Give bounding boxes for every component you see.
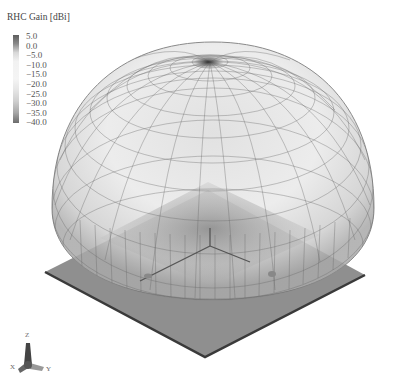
axis-triad: Z X Y bbox=[8, 325, 52, 375]
tick-label: −35.0 bbox=[26, 108, 47, 118]
tick-label: −10.0 bbox=[26, 60, 47, 70]
colorbar bbox=[13, 35, 19, 123]
tick-label: −25.0 bbox=[26, 89, 47, 99]
tick-label: −40.0 bbox=[26, 117, 47, 127]
tick-label: −30.0 bbox=[26, 98, 47, 108]
tick-label: 5.0 bbox=[26, 31, 37, 41]
axis-label-x: X bbox=[10, 363, 15, 371]
tick-label: −15.0 bbox=[26, 69, 47, 79]
radiation-dome bbox=[52, 42, 374, 300]
tick-label: 0.0 bbox=[26, 41, 37, 51]
axis-label-z: Z bbox=[25, 331, 29, 339]
tick-label: −20.0 bbox=[26, 79, 47, 89]
tick-label: −5.0 bbox=[26, 50, 42, 60]
axis-label-y: Y bbox=[46, 365, 51, 373]
radiation-pattern-scene bbox=[0, 0, 401, 382]
legend-title: RHC Gain [dBi] bbox=[7, 12, 70, 22]
